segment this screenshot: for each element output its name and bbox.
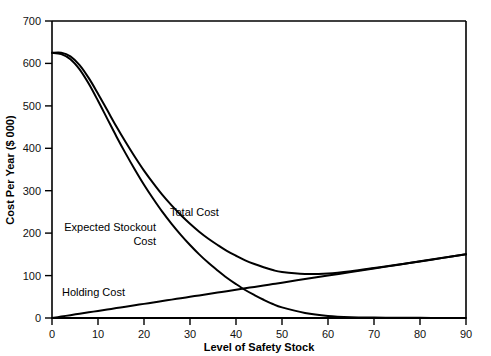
cost-vs-safety-stock-chart: 0 100 200 300 400 500 [0, 0, 491, 356]
x-tick-label: 80 [414, 328, 426, 340]
y-axis-title: Cost Per Year ($ 000) [4, 115, 16, 225]
y-tick-label: 400 [23, 142, 41, 154]
x-tick-label: 90 [460, 328, 472, 340]
y-tick-label: 300 [23, 185, 41, 197]
x-tick-label: 30 [184, 328, 196, 340]
y-tick-label: 100 [23, 270, 41, 282]
x-tick-label: 50 [276, 328, 288, 340]
holding-cost-label: Holding Cost [62, 286, 125, 298]
x-tick-label: 60 [322, 328, 334, 340]
chart-container: 0 100 200 300 400 500 [0, 0, 491, 356]
y-tick-label: 200 [23, 227, 41, 239]
x-tick-label: 0 [49, 328, 55, 340]
y-tick-label: 500 [23, 100, 41, 112]
expected-stockout-cost-label-line2: Cost [133, 235, 156, 247]
x-tick-label: 20 [138, 328, 150, 340]
y-tick-label: 0 [35, 312, 41, 324]
y-tick-label: 700 [23, 15, 41, 27]
chart-background [0, 0, 491, 356]
y-tick-label: 600 [23, 57, 41, 69]
expected-stockout-cost-label-line1: Expected Stockout [64, 221, 156, 233]
total-cost-label: Total Cost [170, 206, 219, 218]
x-tick-label: 10 [92, 328, 104, 340]
x-tick-label: 40 [230, 328, 242, 340]
x-tick-label: 70 [368, 328, 380, 340]
x-axis-title: Level of Safety Stock [204, 341, 316, 353]
